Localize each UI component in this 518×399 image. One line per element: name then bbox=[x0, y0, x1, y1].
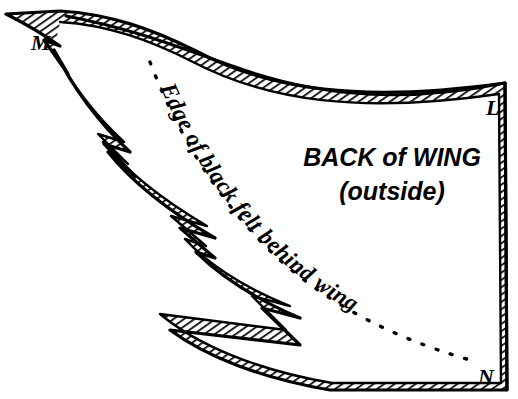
wing-right-edge bbox=[505, 83, 507, 390]
caption-back-of-wing: BACK of WING bbox=[303, 143, 481, 171]
label-m: M bbox=[30, 30, 52, 55]
curve-label-text: Edge of black felt behind wing bbox=[155, 78, 363, 316]
wing-pattern-diagram: Edge of black felt behind wing M L N BAC… bbox=[0, 0, 518, 399]
black-felt-edge-dotted-line bbox=[150, 62, 470, 360]
label-n: N bbox=[477, 364, 495, 389]
label-l: L bbox=[485, 95, 499, 120]
wing-pattern-drawing: Edge of black felt behind wing M L N BAC… bbox=[0, 0, 518, 399]
caption-outside: (outside) bbox=[339, 177, 445, 205]
